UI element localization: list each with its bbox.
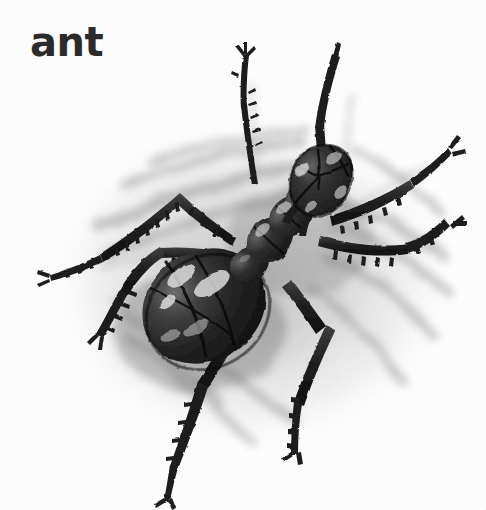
drawing-page: ant [0, 0, 486, 510]
paper-grain-overlay [0, 0, 486, 510]
ant-illustration [0, 0, 486, 510]
caption-label: ant [30, 22, 103, 62]
